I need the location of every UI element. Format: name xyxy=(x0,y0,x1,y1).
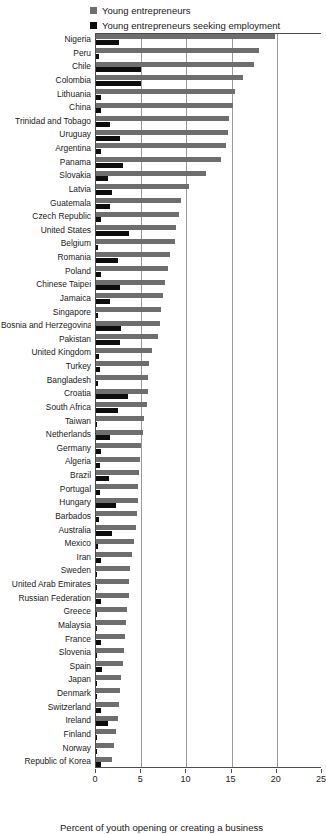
chart-row: Slovakia xyxy=(0,169,323,183)
category-label: Iran xyxy=(1,551,91,565)
chart-row: Sweden xyxy=(0,564,323,578)
bar-group xyxy=(95,564,321,578)
bar-young-entrepreneurs xyxy=(96,620,126,625)
x-tick-label: 10 xyxy=(180,774,190,785)
category-label: Germany xyxy=(1,442,91,456)
bar-group xyxy=(95,755,321,769)
bar-young-entrepreneurs-seeking-employment xyxy=(96,231,129,236)
category-label: Sweden xyxy=(1,564,91,578)
bar-group xyxy=(95,537,321,551)
bar-young-entrepreneurs-seeking-employment xyxy=(96,558,101,563)
chart-row: United Kingdom xyxy=(0,346,323,360)
x-tick-label: 5 xyxy=(138,774,143,785)
category-label: Malaysia xyxy=(1,619,91,633)
bar-group xyxy=(95,714,321,728)
bar-group xyxy=(95,401,321,415)
x-tick-20 xyxy=(276,769,277,773)
bar-group xyxy=(95,605,321,619)
bar-group xyxy=(95,728,321,742)
bar-young-entrepreneurs xyxy=(96,675,121,680)
chart-row: Jamaica xyxy=(0,292,323,306)
x-tick-25 xyxy=(321,769,322,773)
bar-group xyxy=(95,333,321,347)
bar-group xyxy=(95,197,321,211)
category-label: Peru xyxy=(1,47,91,61)
chart-row: Latvia xyxy=(0,183,323,197)
chart-row: Iran xyxy=(0,551,323,565)
bar-group xyxy=(95,673,321,687)
chart-row: France xyxy=(0,633,323,647)
x-axis-label: Percent of youth opening or creating a b… xyxy=(0,822,323,834)
bar-young-entrepreneurs xyxy=(96,334,158,339)
bar-young-entrepreneurs-seeking-employment xyxy=(96,449,101,454)
bar-young-entrepreneurs xyxy=(96,457,140,462)
chart-row: Greece xyxy=(0,605,323,619)
bar-young-entrepreneurs xyxy=(96,661,123,666)
bar-group xyxy=(95,33,321,47)
legend-item-young-entrepreneurs-seeking-employment: Young entrepreneurs seeking employment xyxy=(0,18,323,33)
bar-young-entrepreneurs-seeking-employment xyxy=(96,531,112,536)
bar-young-entrepreneurs xyxy=(96,225,176,230)
bar-young-entrepreneurs xyxy=(96,34,275,39)
chart-row: China xyxy=(0,101,323,115)
bar-young-entrepreneurs xyxy=(96,430,143,435)
bar-young-entrepreneurs xyxy=(96,143,226,148)
bar-group xyxy=(95,469,321,483)
bar-young-entrepreneurs xyxy=(96,157,221,162)
category-label: Belgium xyxy=(1,237,91,251)
bar-young-entrepreneurs xyxy=(96,743,114,748)
bar-group xyxy=(95,551,321,565)
bar-group xyxy=(95,387,321,401)
bar-group xyxy=(95,210,321,224)
category-label: Bangladesh xyxy=(1,374,91,388)
category-label: Mexico xyxy=(1,537,91,551)
bar-young-entrepreneurs xyxy=(96,130,228,135)
category-label: Chinese Taipei xyxy=(1,278,91,292)
x-tick-5 xyxy=(140,769,141,773)
bar-young-entrepreneurs xyxy=(96,266,168,271)
bar-young-entrepreneurs-seeking-employment xyxy=(96,490,100,495)
chart-row: Russian Federation xyxy=(0,592,323,606)
bar-young-entrepreneurs-seeking-employment xyxy=(96,503,116,508)
bar-young-entrepreneurs-seeking-employment xyxy=(96,136,120,141)
bar-young-entrepreneurs xyxy=(96,402,147,407)
bar-group xyxy=(95,701,321,715)
bar-young-entrepreneurs xyxy=(96,103,233,108)
bar-young-entrepreneurs xyxy=(96,89,235,94)
chart-row: Germany xyxy=(0,442,323,456)
category-label: Chile xyxy=(1,60,91,74)
bar-group xyxy=(95,455,321,469)
bar-young-entrepreneurs-seeking-employment xyxy=(96,326,121,331)
category-label: Argentina xyxy=(1,142,91,156)
bar-young-entrepreneurs-seeking-employment xyxy=(96,572,97,577)
bar-young-entrepreneurs xyxy=(96,252,170,257)
bar-young-entrepreneurs-seeking-employment xyxy=(96,217,101,222)
bar-young-entrepreneurs-seeking-employment xyxy=(96,653,97,658)
bar-young-entrepreneurs-seeking-employment xyxy=(96,599,101,604)
bar-young-entrepreneurs-seeking-employment xyxy=(96,612,97,617)
category-label: South Africa xyxy=(1,401,91,415)
bar-young-entrepreneurs xyxy=(96,321,160,326)
chart-row: United States xyxy=(0,224,323,238)
bar-group xyxy=(95,251,321,265)
bar-young-entrepreneurs xyxy=(96,511,137,516)
bar-young-entrepreneurs-seeking-employment xyxy=(96,122,110,127)
bar-young-entrepreneurs-seeking-employment xyxy=(96,299,110,304)
bar-young-entrepreneurs xyxy=(96,702,119,707)
category-label: Spain xyxy=(1,660,91,674)
category-label: Latvia xyxy=(1,183,91,197)
bar-young-entrepreneurs xyxy=(96,239,175,244)
bar-young-entrepreneurs xyxy=(96,539,134,544)
chart-row: Pakistan xyxy=(0,333,323,347)
bar-young-entrepreneurs-seeking-employment xyxy=(96,340,120,345)
bar-group xyxy=(95,346,321,360)
bar-group xyxy=(95,496,321,510)
chart-row: Poland xyxy=(0,265,323,279)
bar-young-entrepreneurs xyxy=(96,757,112,762)
bar-young-entrepreneurs-seeking-employment xyxy=(96,708,101,713)
bar-group xyxy=(95,183,321,197)
chart-row: Lithuania xyxy=(0,88,323,102)
bar-young-entrepreneurs-seeking-employment xyxy=(96,258,118,263)
chart-row: Denmark xyxy=(0,687,323,701)
bar-young-entrepreneurs-seeking-employment xyxy=(96,67,141,72)
